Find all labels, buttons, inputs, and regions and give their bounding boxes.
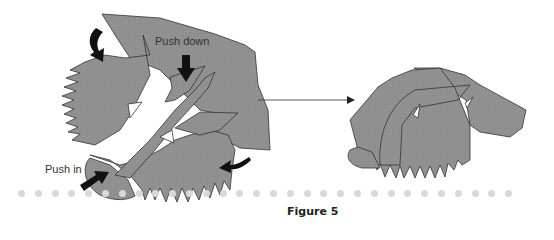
divider-dot (220, 190, 227, 197)
divider-dot (136, 190, 143, 197)
divider-dot (35, 190, 42, 197)
divider-dot (472, 190, 479, 197)
divider-dot (236, 190, 243, 197)
divider-dot (421, 190, 428, 197)
divider-dot (320, 190, 327, 197)
figure-caption: Figure 5 (287, 205, 338, 218)
divider-dot (287, 190, 294, 197)
divider-dot (68, 190, 75, 197)
divider-dot (488, 190, 495, 197)
divider-dot (253, 190, 260, 197)
divider-dot (455, 190, 462, 197)
divider-dot (270, 190, 277, 197)
divider-dot (186, 190, 193, 197)
divider-dot (438, 190, 445, 197)
dot-divider (18, 190, 512, 197)
divider-dot (102, 190, 109, 197)
divider-dot (18, 190, 25, 197)
transition-arrow-icon (258, 96, 355, 104)
divider-dot (152, 190, 159, 197)
divider-dot (304, 190, 311, 197)
origami-after-fold (348, 68, 526, 178)
divider-dot (371, 190, 378, 197)
divider-dot (505, 190, 512, 197)
push-down-label: Push down (155, 35, 209, 47)
push-in-label: Push in (45, 163, 82, 175)
divider-dot (354, 190, 361, 197)
divider-dot (203, 190, 210, 197)
divider-dot (52, 190, 59, 197)
curved-arrow-top-left-icon (90, 28, 104, 62)
divider-dot (388, 190, 395, 197)
divider-dot (337, 190, 344, 197)
divider-dot (169, 190, 176, 197)
divider-dot (85, 190, 92, 197)
divider-dot (119, 190, 126, 197)
divider-dot (404, 190, 411, 197)
